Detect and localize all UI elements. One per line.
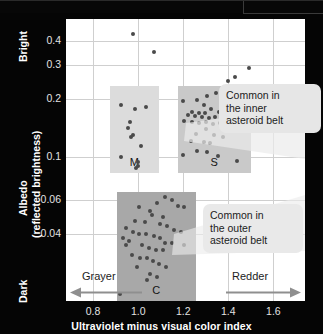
data-point-c-23 (163, 241, 167, 245)
x-axis-title: Ultraviolet minus visual color index (0, 320, 323, 332)
data-point-m-7 (139, 144, 143, 148)
data-point-s-7 (202, 103, 206, 107)
data-point-s-33 (221, 135, 225, 139)
data-point-s-19 (213, 115, 217, 119)
callout-inner-line3: asteroid belt (226, 114, 314, 127)
data-point-s-32 (212, 133, 216, 137)
asteroid-albedo-color-figure: MSC Redder Grayer Common in the inner as… (0, 0, 323, 334)
data-point-c-24 (170, 241, 174, 245)
data-point-c-22 (127, 239, 131, 243)
gridline-vertical-4 (273, 19, 274, 301)
data-point-c-29 (154, 248, 158, 252)
gridline-vertical-0 (93, 19, 94, 301)
x-tick-label-3: 1.4 (213, 305, 243, 317)
data-point-c-33 (145, 256, 149, 260)
data-point-s-23 (182, 119, 186, 123)
data-point-s-3 (195, 98, 199, 102)
callout-outer-line3: asteroid belt (210, 234, 296, 247)
x-tick-label-0: 0.8 (78, 305, 108, 317)
data-point-c-16 (131, 230, 135, 234)
y-axis-dark-label: Dark (17, 280, 29, 303)
data-point-s-43 (233, 75, 237, 79)
data-point-c-9 (133, 219, 137, 223)
plot-area: MSC Redder Grayer (66, 19, 305, 301)
data-point-c-8 (161, 215, 165, 219)
data-point-bright-outliers-1 (152, 50, 156, 54)
data-point-s-0 (214, 91, 218, 95)
data-point-c-35 (157, 262, 161, 266)
data-point-s-39 (181, 153, 185, 157)
data-point-s-35 (202, 140, 206, 144)
data-point-s-29 (204, 127, 208, 131)
x-tick-label-4: 1.6 (258, 305, 288, 317)
callout-inner-line1: Common in (226, 89, 314, 102)
data-point-s-1 (205, 94, 209, 98)
gridline-horizontal-1 (66, 65, 305, 66)
data-point-m-4 (126, 126, 130, 130)
y-tick-label-1: 0.3 (27, 58, 61, 70)
y-axis-bright-label: Bright (17, 31, 29, 62)
data-point-s-24 (190, 120, 194, 124)
data-point-s-41 (235, 159, 239, 163)
callout-outer-line2: the outer (210, 222, 296, 235)
data-point-c-34 (151, 259, 155, 263)
data-point-c-19 (152, 234, 156, 238)
y-axis-title-line2: (reflected brightness) (30, 131, 42, 238)
redder-label: Redder (232, 270, 268, 282)
scan-frame-edge (0, 0, 323, 13)
data-point-s-10 (197, 111, 201, 115)
y-tick-label-0: 0.4 (27, 34, 61, 46)
x-tick-label-2: 1.2 (168, 305, 198, 317)
scan-frame-notch (243, 1, 323, 14)
callout-outer-line1: Common in (210, 209, 296, 222)
data-point-s-17 (200, 115, 204, 119)
data-point-c-30 (161, 248, 165, 252)
data-point-c-14 (179, 230, 183, 234)
data-point-c-38 (148, 272, 152, 276)
data-point-c-13 (172, 228, 176, 232)
data-point-c-11 (158, 222, 162, 226)
data-point-m-2 (144, 105, 148, 109)
data-point-s-42 (226, 79, 230, 83)
callout-outer-belt: Common in the outer asteroid belt (203, 204, 303, 253)
data-point-s-26 (204, 120, 208, 124)
redder-arrow-icon (226, 284, 301, 295)
y-tick-label-2: 0.2 (27, 92, 61, 104)
gridline-horizontal-0 (66, 41, 305, 42)
data-point-m-11 (134, 166, 138, 170)
data-point-bright-outliers-0 (131, 32, 135, 36)
grayer-arrow-icon (70, 284, 142, 295)
class-band-label-s: S (178, 156, 251, 168)
data-point-bright-outliers-2 (247, 66, 251, 70)
callout-inner-belt: Common in the inner asteroid belt (219, 84, 321, 133)
data-point-s-40 (216, 154, 220, 158)
x-tick-label-1: 1.0 (123, 305, 153, 317)
data-point-s-4 (181, 99, 185, 103)
data-point-c-39 (155, 275, 159, 279)
data-point-s-34 (189, 139, 193, 143)
grayer-label: Grayer (82, 270, 116, 282)
data-point-c-4 (176, 204, 180, 208)
y-axis-title-line1: Albedo (17, 180, 29, 216)
data-point-m-1 (133, 107, 137, 111)
data-point-c-6 (148, 209, 152, 213)
callout-inner-line2: the inner (226, 102, 314, 115)
class-band-m: M (110, 86, 159, 173)
data-point-c-26 (124, 243, 128, 247)
data-point-s-18 (207, 116, 211, 120)
data-point-c-28 (147, 246, 151, 250)
data-point-c-10 (143, 220, 147, 224)
data-point-m-0 (119, 103, 123, 107)
data-point-c-1 (170, 198, 174, 202)
data-point-s-37 (195, 149, 199, 153)
data-point-c-36 (135, 265, 139, 269)
